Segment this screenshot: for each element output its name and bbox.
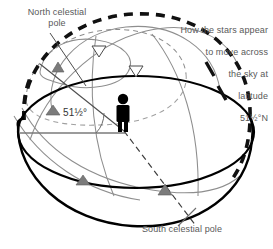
star-path-arc-6	[92, 36, 114, 196]
caption-line-2: to move across	[206, 47, 268, 57]
observer-leg-right	[124, 121, 128, 132]
sphere-lower-outline	[18, 124, 252, 226]
caption-line-3: the sky at	[228, 69, 268, 79]
label-star-motion-caption: How the stars appear to move across the …	[166, 14, 268, 135]
astronomy-diagram-canvas: North celestialpole How the stars appear…	[0, 0, 273, 249]
observer-figure	[117, 94, 130, 132]
star-path-arc-2	[26, 29, 186, 101]
latitude-angle-arc	[96, 113, 104, 133]
polar-axis-lower-dashed	[124, 131, 196, 226]
observer-head	[118, 94, 128, 104]
observer-leg-left	[118, 121, 122, 132]
label-south-celestial-pole: South celestial pole	[142, 224, 272, 235]
caption-line-5-latitude: 51½°N	[240, 113, 268, 123]
caption-line-4: latitude	[238, 91, 268, 101]
label-latitude-angle: 51½°	[63, 107, 87, 118]
observer-body	[117, 105, 130, 122]
caption-line-1: How the stars appear	[180, 25, 268, 35]
ncp-text-line-2: pole	[48, 18, 65, 28]
ncp-text-line-1: North celestial	[28, 7, 87, 17]
label-north-celestial-pole: North celestialpole	[9, 7, 105, 29]
polar-axis-upper	[40, 64, 124, 131]
direction-arrow-group-open	[92, 46, 143, 77]
direction-arrow-filled-2	[46, 105, 60, 115]
